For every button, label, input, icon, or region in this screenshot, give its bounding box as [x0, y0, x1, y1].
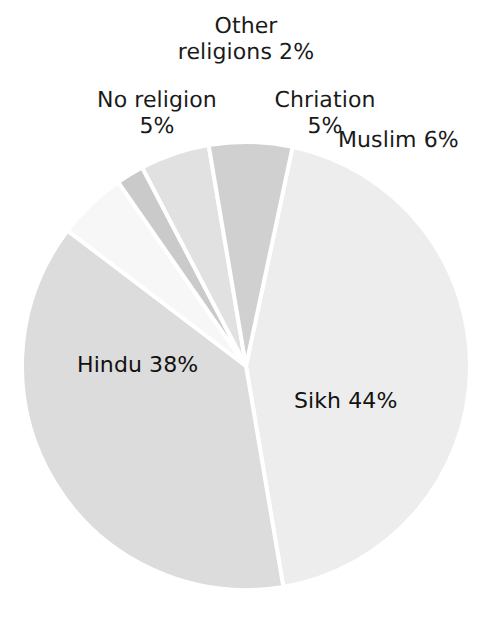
slice-label-sikh: Sikh 44%	[294, 388, 397, 413]
pie-chart-page: Other religions 2% No religion 5% Chriat…	[0, 0, 493, 634]
slice-label-muslim: Muslim 6%	[338, 128, 488, 154]
chart-area: Other religions 2% No religion 5% Chriat…	[0, 0, 493, 634]
slice-label-no-religion: No religion 5%	[72, 88, 242, 140]
slice-label-other-religions: Other religions 2%	[146, 14, 346, 66]
slice-label-hindu: Hindu 38%	[77, 352, 198, 377]
